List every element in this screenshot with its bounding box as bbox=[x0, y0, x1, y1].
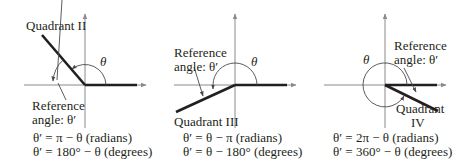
terminal-side bbox=[176, 85, 235, 112]
quadrant-label-line2: IV bbox=[411, 115, 425, 130]
reference-angle-diagrams: Quadrant II θ Reference angle: θ′ θ′ = π… bbox=[0, 0, 462, 167]
terminal-side bbox=[42, 35, 85, 85]
formula-degrees: θ′ = 180° − θ (degrees) bbox=[33, 144, 152, 159]
formula-degrees: θ′ = θ − 180° (degrees) bbox=[183, 144, 302, 159]
panel-quadrant-2: Quadrant II θ Reference angle: θ′ θ′ = π… bbox=[24, 0, 152, 159]
reference-label-line1: Reference bbox=[174, 45, 227, 60]
formula-radians: θ′ = 2π − θ (radians) bbox=[333, 130, 438, 145]
formula-degrees: θ′ = 360° − θ (degrees) bbox=[333, 144, 452, 159]
quadrant-label: Quadrant III bbox=[174, 114, 239, 129]
panel-quadrant-4: θ Reference angle: θ′ Quadrant IV θ′ = 2… bbox=[324, 14, 452, 159]
reference-pointer bbox=[57, 0, 62, 80]
panel-quadrant-3: Reference angle: θ′ θ Quadrant III θ′ = … bbox=[174, 14, 302, 159]
theta-label: θ bbox=[251, 54, 258, 69]
reference-pointer bbox=[404, 68, 416, 92]
theta-label: θ bbox=[363, 52, 370, 67]
formula-radians: θ′ = θ − π (radians) bbox=[183, 130, 282, 145]
reference-label-line2: angle: θ′ bbox=[394, 52, 438, 67]
reference-label-line1: Reference bbox=[394, 38, 447, 53]
quadrant-label: Quadrant II bbox=[26, 18, 86, 33]
theta-label: θ bbox=[100, 54, 107, 69]
formula-radians: θ′ = π − θ (radians) bbox=[33, 130, 132, 145]
quadrant-label-line1: Quadrant bbox=[396, 101, 445, 116]
reference-label-line2: angle: θ′ bbox=[32, 112, 76, 127]
reference-label-line2: angle: θ′ bbox=[174, 59, 218, 74]
reference-label-line1: Reference bbox=[32, 98, 85, 113]
